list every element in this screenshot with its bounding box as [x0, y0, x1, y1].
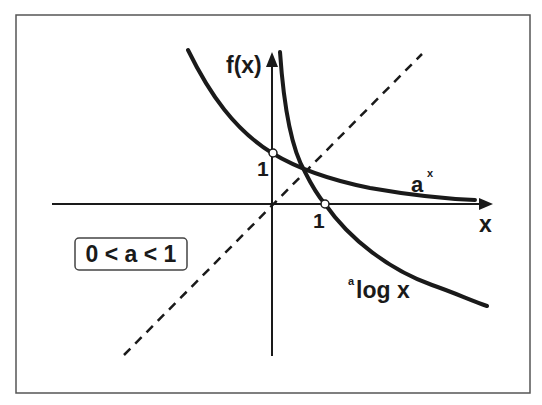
x-axis-arrow-icon: [479, 198, 493, 210]
exp-curve-label-sup: x: [427, 167, 434, 179]
exp-curve-label-base: a: [411, 172, 424, 197]
y-axis-arrow-icon: [266, 52, 278, 67]
condition-text: 0 < a < 1: [86, 241, 177, 267]
log-curve-label-base: log x: [356, 277, 410, 303]
x-tick-label: 1: [313, 209, 325, 232]
point-0-1-marker: [269, 149, 277, 157]
y-axis-label: f(x): [226, 52, 262, 78]
x-axis-label: x: [479, 211, 492, 237]
point-1-0-marker: [321, 200, 329, 208]
curve-logarithm: [280, 52, 487, 306]
function-diagram: f(x) x 1 1 a x a log x 0 < a < 1: [0, 0, 542, 405]
log-curve-label-sup: a: [348, 275, 355, 287]
y-tick-label: 1: [257, 157, 269, 180]
